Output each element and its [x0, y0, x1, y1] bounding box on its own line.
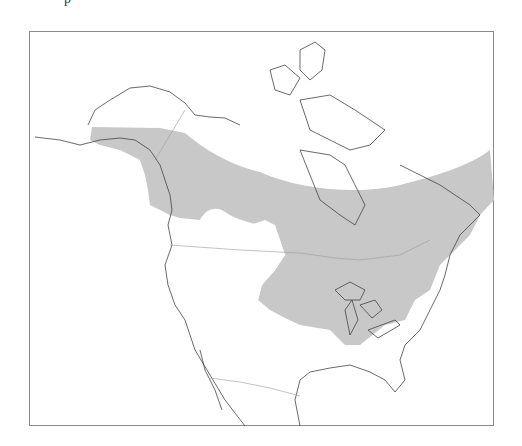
range-area	[90, 127, 494, 345]
north-america-range-map	[0, 0, 522, 446]
